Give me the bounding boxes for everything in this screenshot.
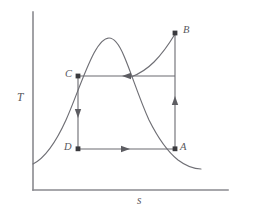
x-axis-label: s xyxy=(137,195,141,207)
state-point-b-dot[interactable] xyxy=(173,31,178,36)
state-points-group xyxy=(76,31,178,152)
state-label-c: C xyxy=(65,69,72,80)
ts-diagram-figure: T s A B C D xyxy=(0,0,264,215)
state-point-a-dot[interactable] xyxy=(173,146,178,151)
axes-group xyxy=(33,12,228,190)
state-label-a: A xyxy=(180,142,186,153)
y-axis-label: T xyxy=(17,92,23,104)
state-label-d: D xyxy=(64,142,72,153)
cycle-paths-group xyxy=(75,33,178,152)
state-point-c-dot[interactable] xyxy=(76,74,81,79)
arrow-b-to-c-icon xyxy=(122,73,131,79)
diagram-canvas xyxy=(0,0,264,215)
expansion-curve xyxy=(131,34,175,77)
arrow-a-to-b-icon xyxy=(172,96,178,105)
arrow-c-to-d-icon xyxy=(75,109,81,118)
expansion-curve-group xyxy=(131,34,175,77)
state-point-d-dot[interactable] xyxy=(76,146,81,151)
state-label-b: B xyxy=(183,25,189,36)
arrow-d-to-a-icon xyxy=(121,146,130,152)
